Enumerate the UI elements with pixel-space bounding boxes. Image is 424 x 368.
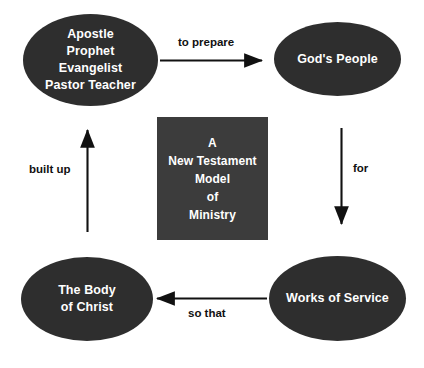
node-works-of-service: Works of Service xyxy=(269,256,406,341)
node-label: God's People xyxy=(297,51,378,68)
arrow-label-so-that: so that xyxy=(188,307,226,319)
node-label: Apostle Prophet Evangelist Pastor Teache… xyxy=(45,26,136,94)
node-gods-people: God's People xyxy=(274,22,401,96)
node-center-title-box: A New Testament Model of Ministry xyxy=(157,117,268,240)
node-label: Works of Service xyxy=(286,290,389,307)
node-label: A New Testament Model of Ministry xyxy=(168,134,256,224)
arrow-label-for: for xyxy=(353,162,368,174)
ministry-cycle-diagram: Apostle Prophet Evangelist Pastor Teache… xyxy=(0,0,424,368)
arrow-label-to-prepare: to prepare xyxy=(178,36,234,48)
arrow-label-built-up: built up xyxy=(29,163,71,175)
node-fivefold-ministry-roles: Apostle Prophet Evangelist Pastor Teache… xyxy=(23,14,158,106)
node-label: The Body of Christ xyxy=(58,282,116,317)
node-body-of-christ: The Body of Christ xyxy=(21,257,153,341)
